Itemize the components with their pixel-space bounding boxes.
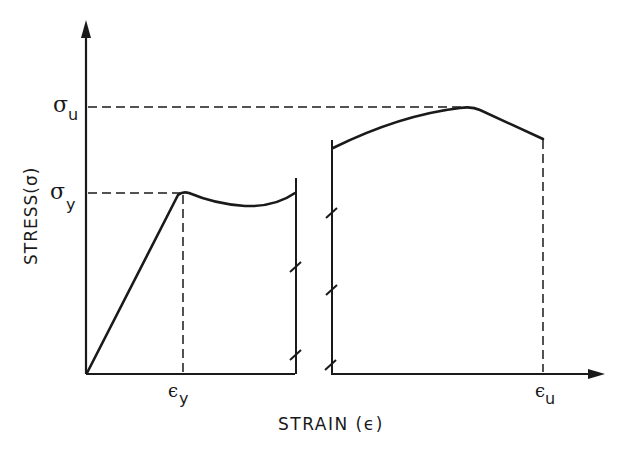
svg-text:u: u (68, 105, 78, 124)
x-axis-right-segment (331, 369, 605, 379)
svg-text:σ: σ (50, 179, 65, 204)
right-panel-break-wall (325, 140, 337, 374)
svg-text:y: y (179, 389, 188, 408)
y-axis (81, 20, 91, 374)
y-axis-arrow-icon (81, 20, 91, 38)
x-axis-title: STRAIN (ϵ) (278, 414, 384, 434)
strain-hardening-curve (333, 107, 543, 148)
svg-text:ϵ: ϵ (535, 380, 545, 401)
x-tick-epsilon-u: ϵ u (535, 380, 555, 408)
stress-strain-diagram: σ u σ y ϵ y ϵ u STRAIN (ϵ) STRESS(σ) (0, 0, 625, 450)
y-tick-sigma-y: σ y (50, 179, 75, 214)
x-tick-epsilon-y: ϵ y (168, 380, 188, 408)
svg-text:u: u (545, 389, 555, 408)
svg-text:σ: σ (53, 92, 68, 117)
elastic-and-yield-curve (87, 192, 295, 373)
left-panel-break-wall (288, 178, 301, 374)
svg-text:ϵ: ϵ (168, 380, 178, 401)
svg-text:y: y (66, 195, 75, 214)
y-tick-sigma-u: σ u (53, 92, 78, 124)
axis-break-icon (325, 360, 336, 370)
y-axis-title: STRESS(σ) (21, 167, 41, 265)
x-axis-arrow-icon (588, 369, 605, 379)
